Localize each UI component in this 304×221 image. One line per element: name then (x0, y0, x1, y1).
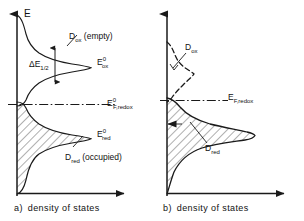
panel-b-caption-prefix: b) (163, 203, 172, 213)
panel-b-fermi-label: EF,redox (228, 93, 253, 104)
panel-a-fermi-superscript: 0 (113, 97, 116, 103)
panel-a-d-ox-note: (empty) (84, 31, 113, 41)
panel-a-fermi-subscript: F,redox (113, 104, 133, 110)
panel-a-delta-e-subscript: 1/2 (40, 65, 48, 71)
panel-b-caption-text: density of states (177, 203, 249, 213)
panel-b-d-ox-subscript: ox (191, 48, 197, 54)
panel-a-e-ox-superscript: 0 (103, 56, 106, 62)
panel-a-caption-text: density of states (28, 203, 100, 213)
panel-a-caption-prefix: a) (14, 203, 23, 213)
panel-a-caption: a)density of states (14, 203, 100, 213)
panel-a-delta-e-symbol: ΔE (29, 59, 40, 69)
panel-b (160, 14, 284, 196)
panel-a-e-red-label: E0red (97, 128, 111, 141)
panel-b-fermi-subscript: F,redox (234, 98, 254, 104)
panel-a-e-ox-subscript: ox (102, 63, 108, 69)
panel-a-fermi-label: E0F,redox (107, 97, 133, 110)
panel-b-caption: b)density of states (163, 203, 249, 213)
panel-a-delta-e-label: ΔE1/2 (29, 60, 49, 71)
panel-b-d-red-label: Dred (205, 144, 220, 155)
panel-b-d-ox-label: Dox (185, 43, 197, 54)
panel-a-d-red-label: Dred (occupied) (65, 153, 122, 164)
figure-canvas (0, 0, 304, 221)
figure-density-of-states: E Dox (empty) E0ox ΔE1/2 E0F,redox E0red… (0, 0, 304, 221)
panel-a-e-red-superscript: 0 (103, 128, 106, 134)
panel-a-energy-axis-label: E (24, 8, 31, 19)
panel-b-d-red-subscript: red (211, 149, 220, 155)
panel-a-d-ox-label: Dox (empty) (69, 32, 113, 43)
panel-a-d-ox-subscript: ox (75, 37, 81, 43)
panel-a-d-red-subscript: red (71, 158, 80, 164)
panel-a-d-red-note: (occupied) (82, 152, 122, 162)
panel-a-e-ox-label: E0ox (97, 56, 108, 69)
panel-a-e-red-subscript: red (102, 135, 111, 141)
